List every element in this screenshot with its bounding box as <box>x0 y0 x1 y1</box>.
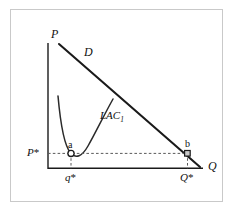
point-a-label: a <box>68 140 72 150</box>
price-level-tick-label: P* <box>27 147 39 158</box>
firm-quantity-star: * <box>71 171 77 183</box>
lac-curve-label: LAC1 <box>100 110 124 124</box>
market-quantity-star: * <box>188 171 194 183</box>
price-level-main: P <box>27 146 34 158</box>
point-b-marker <box>185 151 191 157</box>
lac-label-subscript: 1 <box>120 115 124 124</box>
quantity-axis-label: Q <box>208 160 217 172</box>
firm-quantity-tick-label: q* <box>65 172 76 183</box>
market-quantity-tick-label: Q* <box>180 172 193 183</box>
demand-curve <box>59 44 200 167</box>
economics-diagram-figure: P Q D LAC1 a b P* q* Q* <box>0 0 236 214</box>
lac-label-main: LAC <box>100 109 120 121</box>
lac-curve <box>58 96 113 156</box>
price-level-star: * <box>34 146 40 158</box>
plot-canvas <box>0 0 236 214</box>
demand-curve-label: D <box>84 46 93 58</box>
point-b-label: b <box>185 139 190 149</box>
market-quantity-main: Q <box>180 171 188 183</box>
price-axis-label: P <box>51 28 58 40</box>
point-a-marker <box>68 150 74 156</box>
